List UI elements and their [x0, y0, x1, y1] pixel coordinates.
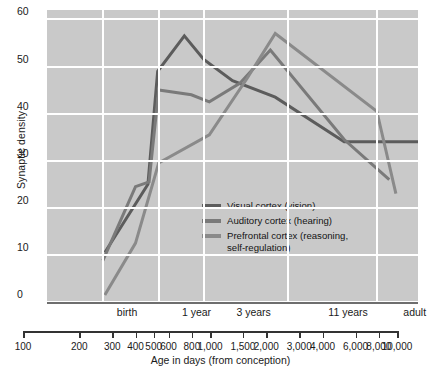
y-tick-label: 10 — [17, 241, 47, 253]
stage-label: 3 years — [236, 306, 270, 318]
ruler-label: 600 — [160, 341, 177, 352]
gridline-vertical — [203, 10, 205, 302]
ruler-label: 200 — [71, 341, 88, 352]
synaptic-density-chart: Synaptic density Visual cortex (vision) … — [0, 0, 441, 368]
ruler-tick — [243, 331, 245, 338]
y-tick-label: 50 — [17, 53, 47, 65]
stage-label: 1 year — [182, 306, 211, 318]
gridline-vertical — [376, 10, 378, 302]
ruler-label: 1,500 — [230, 341, 255, 352]
ruler-label: 4,000 — [310, 341, 335, 352]
ruler-label: 2,000 — [254, 341, 279, 352]
legend-swatch-prefrontal-cortex — [202, 234, 221, 238]
ruler-tick — [356, 331, 358, 338]
legend-item-prefrontal-cortex: Prefrontal cortex (reasoning, self-regul… — [202, 230, 348, 253]
x-axis-title: Age in days (from conception) — [0, 354, 441, 366]
ruler-tick — [154, 331, 156, 338]
y-tick-label: 60 — [17, 5, 47, 17]
legend-item-auditory-cortex: Auditory cortex (hearing) — [202, 215, 348, 227]
ruler-label: 6,000 — [343, 341, 368, 352]
ruler-label: 400 — [127, 341, 144, 352]
ruler-tick — [379, 331, 381, 338]
ruler-label: 300 — [104, 341, 121, 352]
legend-label-auditory-cortex: Auditory cortex (hearing) — [227, 215, 332, 227]
ruler-tick — [299, 331, 301, 338]
ruler-tick — [136, 331, 138, 338]
ruler-tick — [266, 331, 268, 338]
ruler-label: 3,000 — [287, 341, 312, 352]
ruler-tick — [210, 331, 212, 338]
ruler-tick — [192, 331, 194, 338]
ruler-tick — [112, 331, 114, 338]
ruler-tick — [23, 331, 25, 338]
legend-label-visual-cortex: Visual cortex (vision) — [227, 200, 315, 212]
x-axis-line — [47, 302, 418, 304]
y-tick-label: 40 — [17, 100, 47, 112]
ruler-label: 10,000 — [382, 341, 413, 352]
legend-swatch-auditory-cortex — [202, 219, 221, 223]
stage-label: adult — [403, 306, 426, 318]
stage-label: birth — [117, 306, 137, 318]
y-tick-label: 20 — [17, 194, 47, 206]
ruler-tick — [169, 331, 171, 338]
ruler-label: 100 — [15, 341, 32, 352]
ruler-tick — [323, 331, 325, 338]
legend-item-visual-cortex: Visual cortex (vision) — [202, 200, 348, 212]
stage-label: 11 years — [328, 306, 368, 318]
y-tick-label: 0 — [17, 288, 47, 300]
ruler-tick — [79, 331, 81, 338]
ruler-label: 1,000 — [197, 341, 222, 352]
gridline-vertical — [287, 10, 289, 302]
gridline-vertical — [158, 10, 160, 302]
ruler-tick — [397, 331, 399, 338]
plot-area: Visual cortex (vision) Auditory cortex (… — [47, 10, 418, 302]
gridline-vertical — [102, 10, 104, 302]
y-tick-label: 30 — [17, 147, 47, 159]
